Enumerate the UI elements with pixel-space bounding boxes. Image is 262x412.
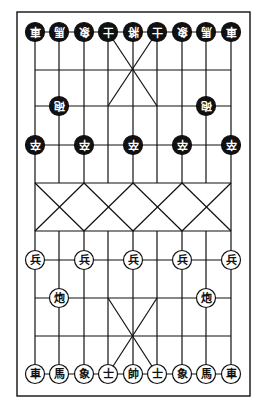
- black-elephant-piece[interactable]: 象: [173, 23, 192, 42]
- red-horse-piece[interactable]: 馬: [50, 365, 69, 384]
- red-general-piece[interactable]: 帥: [124, 365, 143, 384]
- black-general-piece[interactable]: 將: [124, 23, 143, 42]
- black-soldier-piece[interactable]: 卒: [75, 136, 94, 155]
- piece-label: 車: [226, 367, 237, 381]
- red-elephant-piece[interactable]: 象: [173, 365, 192, 384]
- black-soldier-piece[interactable]: 卒: [26, 136, 45, 155]
- piece-label: 炮: [54, 291, 65, 305]
- piece-label: 車: [226, 25, 237, 39]
- black-cannon-piece[interactable]: 砲: [50, 97, 69, 116]
- piece-label: 卒: [226, 138, 237, 152]
- piece-label: 馬: [201, 368, 212, 381]
- piece-label: 卒: [128, 138, 139, 152]
- piece-label: 象: [79, 367, 90, 381]
- red-horse-piece[interactable]: 馬: [197, 365, 216, 384]
- red-soldier-piece[interactable]: 兵: [26, 251, 45, 270]
- piece-label: 砲: [54, 99, 66, 113]
- piece-label: 將: [128, 25, 139, 39]
- black-soldier-piece[interactable]: 卒: [124, 136, 143, 155]
- piece-label: 士: [103, 25, 114, 39]
- black-chariot-piece[interactable]: 車: [222, 23, 241, 42]
- piece-label: 車: [30, 25, 41, 39]
- piece-label: 士: [103, 367, 114, 381]
- black-elephant-piece[interactable]: 象: [75, 23, 94, 42]
- piece-label: 車: [30, 367, 41, 381]
- red-advisor-piece[interactable]: 士: [99, 365, 118, 384]
- red-soldier-piece[interactable]: 兵: [222, 251, 241, 270]
- red-chariot-piece[interactable]: 車: [222, 365, 241, 384]
- red-soldier-piece[interactable]: 兵: [124, 251, 143, 270]
- black-advisor-piece[interactable]: 士: [99, 23, 118, 42]
- piece-label: 帥: [128, 367, 139, 381]
- red-cannon-piece[interactable]: 炮: [197, 289, 216, 308]
- piece-label: 兵: [226, 253, 237, 267]
- piece-label: 砲: [201, 99, 213, 113]
- piece-label: 兵: [30, 253, 41, 267]
- red-cannon-piece[interactable]: 炮: [50, 289, 69, 308]
- black-advisor-piece[interactable]: 士: [148, 23, 167, 42]
- black-soldier-piece[interactable]: 卒: [222, 136, 241, 155]
- red-chariot-piece[interactable]: 車: [26, 365, 45, 384]
- piece-label: 兵: [128, 253, 139, 267]
- piece-label: 象: [79, 25, 90, 39]
- piece-label: 馬: [54, 368, 65, 381]
- black-horse-piece[interactable]: 馬: [50, 23, 69, 42]
- piece-label: 士: [152, 367, 163, 381]
- piece-label: 兵: [177, 253, 188, 267]
- piece-label: 象: [177, 25, 188, 39]
- red-soldier-piece[interactable]: 兵: [75, 251, 94, 270]
- piece-label: 馬: [54, 25, 65, 38]
- black-cannon-piece[interactable]: 砲: [197, 97, 216, 116]
- piece-label: 卒: [79, 138, 90, 152]
- red-elephant-piece[interactable]: 象: [75, 365, 94, 384]
- piece-label: 象: [177, 367, 188, 381]
- piece-label: 馬: [201, 25, 212, 38]
- black-chariot-piece[interactable]: 車: [26, 23, 45, 42]
- black-soldier-piece[interactable]: 卒: [173, 136, 192, 155]
- piece-label: 士: [152, 25, 163, 39]
- piece-label: 卒: [177, 138, 188, 152]
- black-horse-piece[interactable]: 馬: [197, 23, 216, 42]
- red-advisor-piece[interactable]: 士: [148, 365, 167, 384]
- piece-label: 卒: [30, 138, 41, 152]
- xiangqi-board: 車馬象士將士象馬車砲砲卒卒卒卒卒兵兵兵兵兵炮炮車馬象士帥士象馬車: [0, 0, 262, 412]
- piece-label: 兵: [79, 253, 90, 267]
- red-soldier-piece[interactable]: 兵: [173, 251, 192, 270]
- board-grid: [17, 12, 250, 396]
- piece-label: 炮: [201, 291, 212, 305]
